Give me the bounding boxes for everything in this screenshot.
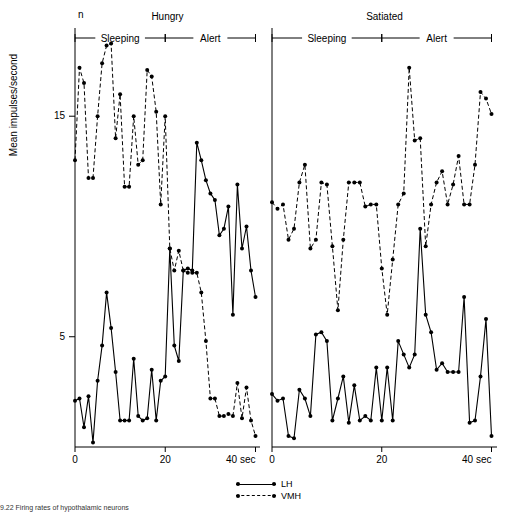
data-point <box>195 141 199 145</box>
data-point <box>249 419 253 423</box>
data-point <box>82 81 86 85</box>
data-point <box>468 421 472 425</box>
data-point <box>336 308 340 312</box>
data-point <box>208 191 212 195</box>
data-point <box>281 202 285 206</box>
y-axis-label: Mean impulses/second <box>8 35 19 175</box>
data-point <box>287 434 291 438</box>
n-label: n <box>78 9 84 20</box>
data-point <box>297 388 301 392</box>
data-point <box>226 412 230 416</box>
legend-label-vmh: VMH <box>281 491 301 501</box>
data-point <box>490 112 494 116</box>
data-point <box>96 114 100 118</box>
legend-line-dashed <box>236 495 276 497</box>
data-point <box>105 44 109 48</box>
data-point <box>440 361 444 365</box>
legend-line-solid <box>236 484 276 485</box>
y-tick-label: 15 <box>54 110 66 121</box>
data-point <box>168 247 172 251</box>
data-point <box>374 202 378 206</box>
data-point <box>330 419 334 423</box>
data-point <box>136 163 140 167</box>
data-point <box>132 114 136 118</box>
data-point <box>396 339 400 343</box>
data-point <box>292 436 296 440</box>
data-point <box>199 291 203 295</box>
data-point <box>235 183 239 187</box>
data-point <box>330 244 334 248</box>
data-point <box>457 370 461 374</box>
data-point <box>407 66 411 70</box>
data-point <box>402 352 406 356</box>
phase-label-alert: Alert <box>200 33 221 44</box>
data-point <box>231 313 235 317</box>
data-point <box>479 374 483 378</box>
panel-title-satiated: Satiated <box>366 11 403 22</box>
data-point <box>177 359 181 363</box>
data-point <box>150 75 154 79</box>
data-point <box>213 198 217 202</box>
data-point <box>82 425 86 429</box>
data-point <box>235 381 239 385</box>
data-point <box>418 136 422 140</box>
data-point <box>91 441 95 445</box>
data-point <box>369 419 373 423</box>
data-point <box>358 419 362 423</box>
data-point <box>177 249 181 253</box>
data-point <box>457 154 461 158</box>
legend-label-lh: LH <box>281 479 293 489</box>
data-point <box>462 295 466 299</box>
data-point <box>468 202 472 206</box>
data-point <box>172 344 176 348</box>
phase-label-alert: Alert <box>426 33 447 44</box>
data-point <box>391 258 395 262</box>
data-point <box>190 271 194 275</box>
data-point <box>303 163 307 167</box>
data-point <box>208 397 212 401</box>
data-point <box>380 266 384 270</box>
data-point <box>413 352 417 356</box>
data-point <box>440 169 444 173</box>
data-point <box>154 419 158 423</box>
data-point <box>172 269 176 273</box>
data-point <box>363 205 367 209</box>
data-point <box>87 394 91 398</box>
data-point <box>446 370 450 374</box>
x-tick-label: 20 <box>160 454 172 465</box>
data-point <box>73 158 77 162</box>
data-point <box>374 366 378 370</box>
data-point <box>186 271 190 275</box>
data-point <box>123 185 127 189</box>
data-point <box>240 247 244 251</box>
data-point <box>276 399 280 403</box>
chart-svg: 51502040 secHungrySleepingAlert02040 sec… <box>0 0 527 513</box>
data-point <box>446 202 450 206</box>
data-point <box>490 434 494 438</box>
data-point <box>473 419 477 423</box>
series-line-lh <box>272 229 492 439</box>
data-point <box>159 379 163 383</box>
data-point <box>204 339 208 343</box>
data-point <box>78 397 82 401</box>
data-point <box>204 178 208 182</box>
data-point <box>287 238 291 242</box>
data-point <box>276 207 280 211</box>
data-point <box>462 202 466 206</box>
data-point <box>341 238 345 242</box>
data-point <box>363 414 367 418</box>
data-point <box>347 180 351 184</box>
legend-item-lh: LH <box>236 478 301 490</box>
data-point <box>141 158 145 162</box>
data-point <box>109 326 113 330</box>
data-point <box>150 368 154 372</box>
data-point <box>451 183 455 187</box>
data-point <box>308 247 312 251</box>
data-point <box>159 202 163 206</box>
data-point <box>319 180 323 184</box>
x-tick-label: 0 <box>269 454 275 465</box>
data-point <box>385 313 389 317</box>
data-point <box>222 414 226 418</box>
data-point <box>91 176 95 180</box>
figure-container: 51502040 secHungrySleepingAlert02040 sec… <box>0 0 527 513</box>
